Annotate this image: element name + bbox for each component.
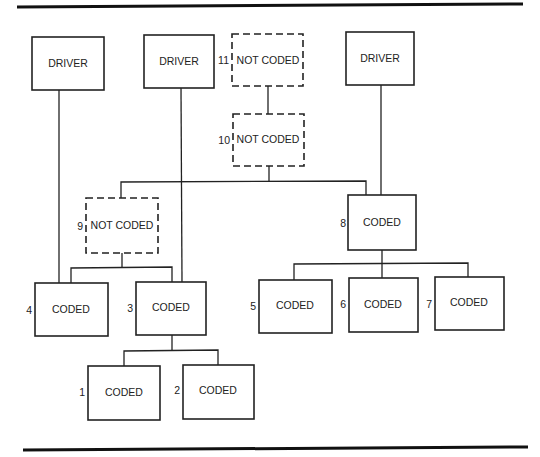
node-11: NOT CODED 11: [218, 34, 303, 86]
node-number: 1: [79, 386, 85, 398]
edge-n10-bar: [121, 181, 366, 198]
node-label: NOT CODED: [237, 54, 300, 66]
node-5: CODED 5: [250, 280, 332, 333]
node-label: CODED: [276, 299, 314, 311]
edge-n9-bar: [71, 267, 172, 283]
edge-driver2-n3: [181, 88, 182, 282]
node-number: 11: [218, 54, 229, 66]
node-2: CODED 2: [174, 365, 254, 419]
node-label: NOT CODED: [237, 133, 300, 145]
node-driver-1: DRIVER: [32, 37, 104, 90]
node-label: CODED: [152, 301, 190, 313]
node-label: CODED: [450, 296, 488, 308]
node-9: NOT CODED 9: [77, 198, 158, 253]
node-10: NOT CODED 10: [218, 114, 304, 166]
node-label: CODED: [364, 298, 402, 310]
node-6: CODED 6: [340, 278, 418, 332]
node-label: NOT CODED: [91, 219, 154, 231]
node-label: CODED: [105, 386, 143, 398]
node-number: 6: [340, 298, 346, 310]
edge-n3-bar: [124, 350, 218, 366]
node-driver-2: DRIVER: [144, 35, 214, 88]
bottom-rule: [23, 447, 528, 450]
node-7: CODED 7: [426, 277, 504, 330]
node-label: DRIVER: [159, 55, 199, 67]
node-number: 2: [174, 384, 180, 396]
node-number: 7: [426, 298, 432, 310]
node-driver-3: DRIVER: [346, 32, 414, 85]
node-number: 5: [250, 300, 256, 312]
node-8: CODED 8: [340, 195, 416, 250]
node-4: CODED 4: [26, 283, 108, 336]
diagram-canvas: DRIVER DRIVER DRIVER NOT CODED 11 NOT CO…: [0, 0, 540, 457]
node-label: DRIVER: [48, 57, 88, 69]
node-1: CODED 1: [79, 366, 160, 420]
node-number: 8: [340, 217, 346, 229]
top-rule: [17, 4, 523, 7]
node-label: CODED: [52, 303, 90, 315]
node-label: CODED: [363, 216, 401, 228]
node-3: CODED 3: [127, 282, 206, 335]
node-number: 9: [77, 220, 83, 232]
node-number: 10: [218, 134, 230, 146]
node-label: DRIVER: [360, 52, 400, 64]
node-number: 3: [127, 302, 133, 314]
node-number: 4: [26, 304, 32, 316]
node-label: CODED: [199, 384, 237, 396]
